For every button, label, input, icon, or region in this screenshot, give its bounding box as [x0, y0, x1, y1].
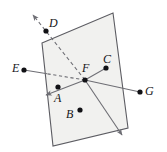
- geometry-figure: ABCDEFG: [0, 0, 167, 152]
- point-dot-e: [21, 67, 26, 72]
- point-dot-b: [77, 107, 82, 112]
- point-label-b: B: [66, 108, 73, 120]
- point-label-c: C: [103, 53, 111, 65]
- point-dot-a: [55, 84, 60, 89]
- point-dot-g: [137, 89, 142, 94]
- point-dot-c: [103, 65, 108, 70]
- geometry-canvas: [0, 0, 167, 152]
- point-label-a: A: [54, 92, 61, 104]
- ray-F-to-E-solid-segment: [24, 70, 47, 74]
- point-label-g: G: [145, 85, 154, 97]
- point-dot-d: [43, 28, 48, 33]
- point-dot-f: [82, 77, 87, 82]
- point-label-d: D: [49, 17, 58, 29]
- point-label-f: F: [82, 62, 89, 74]
- point-label-e: E: [12, 62, 19, 74]
